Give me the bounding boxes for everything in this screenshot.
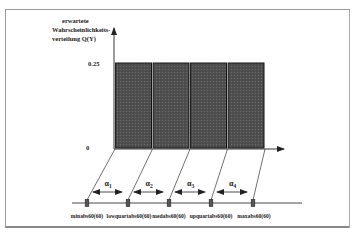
bar-3 [191,63,227,148]
marker-label-3: medabs60(60) [152,213,185,220]
bar-1 [116,63,152,148]
ylabel-line-3: verteilung Q(Y) [52,35,96,43]
y-tick-label-025: 0.25 [88,60,100,67]
marker-2 [126,200,130,207]
interval-label-sub-3: 3 [191,183,194,189]
interval-label-sub-4: 4 [233,183,236,189]
bar-4 [228,63,264,148]
bar-2 [153,63,189,148]
interval-label-1: α1 [105,179,112,189]
marker-3 [167,200,171,207]
ylabel-line-1: erwartete [62,17,89,24]
marker-label-1: minabs60(60) [71,213,103,220]
interval-label-sub-1: 1 [109,183,112,189]
marker-5 [251,200,255,207]
marker-label-2: lowquartabs60(60) [107,213,152,220]
projection-line-5 [253,149,265,200]
y-tick-label-0: 0 [86,144,89,151]
interval-label-sub-2: 2 [150,183,153,189]
distribution-diagram: erwartete Wahrscheinlichkeits- verteilun… [0,0,356,236]
ylabel-line-2: Wahrscheinlichkeits- [52,26,111,33]
marker-label-4: upquartabs60(60) [190,213,233,220]
marker-label-5: maxabs60(60) [237,213,270,220]
interval-label-4: α4 [229,179,236,189]
marker-1 [85,200,89,207]
marker-4 [209,200,213,207]
interval-label-2: α2 [146,179,153,189]
interval-label-3: α3 [187,179,194,189]
